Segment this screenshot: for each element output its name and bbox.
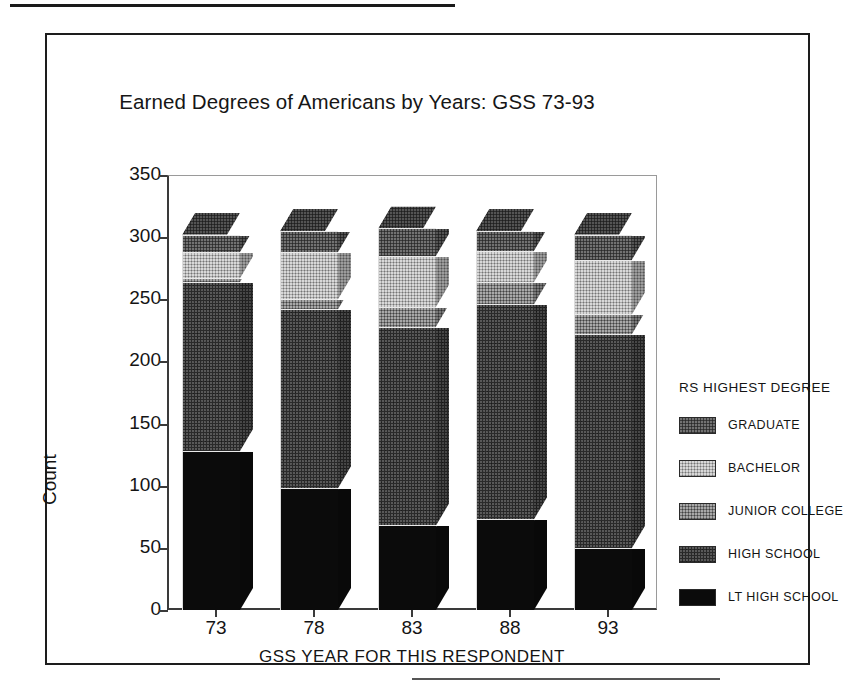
bar-segment-side-face bbox=[534, 305, 547, 519]
bar-segment-graduate bbox=[476, 231, 534, 251]
bar-segment-high-school bbox=[182, 282, 240, 451]
lt-high-school-swatch bbox=[679, 589, 716, 606]
y-axis-title: Count bbox=[39, 454, 61, 505]
legend-title: RS HIGHEST DEGREE bbox=[679, 380, 850, 395]
y-tick-label: 350 bbox=[129, 163, 161, 185]
legend-item-bachelor[interactable]: BACHELOR bbox=[679, 459, 850, 477]
x-tick-label-93: 93 bbox=[578, 617, 638, 639]
bar-segment-side-face bbox=[338, 300, 351, 309]
x-tick-label-83: 83 bbox=[382, 617, 442, 639]
x-tick-label-88: 88 bbox=[480, 617, 540, 639]
y-tick-mark bbox=[159, 610, 168, 612]
x-tick-mark bbox=[215, 610, 217, 617]
bar-segment-junior-college bbox=[182, 278, 240, 282]
legend-item-graduate[interactable]: GRADUATE bbox=[679, 416, 850, 434]
bar-segment-side-face bbox=[436, 526, 449, 610]
graduate-swatch bbox=[679, 417, 716, 434]
y-tick-mark bbox=[159, 361, 168, 363]
bar-stack bbox=[574, 235, 632, 610]
figure-frame: Earned Degrees of Americans by Years: GS… bbox=[45, 33, 810, 665]
bar-stack bbox=[182, 235, 240, 610]
y-tick-mark bbox=[159, 548, 168, 550]
bar-segment-graduate bbox=[280, 231, 338, 252]
bar-segment-bachelor bbox=[182, 252, 240, 278]
x-tick-mark bbox=[509, 610, 511, 617]
x-tick-mark bbox=[607, 610, 609, 617]
y-tick-label: 0 bbox=[150, 598, 161, 620]
bar-segment-lt-high-school bbox=[476, 519, 534, 610]
bar-segment-side-face bbox=[632, 315, 645, 334]
bar-segment-side-face bbox=[338, 489, 351, 610]
bar-top-face-fill bbox=[182, 213, 253, 235]
bar-segment-high-school bbox=[574, 334, 632, 548]
bar-segment-high-school bbox=[280, 309, 338, 488]
bar-column-83 bbox=[378, 175, 436, 610]
bar-column-73 bbox=[182, 175, 240, 610]
bar-segment-side-face bbox=[632, 236, 645, 260]
bar-stack bbox=[378, 228, 436, 610]
bar-top-face-fill bbox=[280, 209, 351, 231]
junior-college-swatch bbox=[679, 503, 716, 520]
y-tick-mark bbox=[159, 299, 168, 301]
bar-segment-junior-college bbox=[280, 299, 338, 309]
y-tick-label: 50 bbox=[140, 536, 161, 558]
bar-segment-lt-high-school bbox=[378, 525, 436, 610]
bar-top-face-fill bbox=[476, 209, 547, 231]
bar-column-78 bbox=[280, 175, 338, 610]
bar-segment-side-face bbox=[240, 279, 253, 282]
x-tick-label-78: 78 bbox=[284, 617, 344, 639]
legend-label: GRADUATE bbox=[728, 418, 800, 432]
bar-segment-lt-high-school bbox=[280, 488, 338, 610]
legend-item-junior-college[interactable]: JUNIOR COLLEGE bbox=[679, 502, 850, 520]
bar-segment-junior-college bbox=[574, 314, 632, 334]
chart-title: Earned Degrees of Americans by Years: GS… bbox=[47, 90, 667, 114]
bar-stack bbox=[280, 231, 338, 610]
x-tick-mark bbox=[313, 610, 315, 617]
bar-segment-side-face bbox=[632, 549, 645, 610]
bar-segment-junior-college bbox=[476, 282, 534, 304]
bar-segment-graduate bbox=[182, 235, 240, 252]
bar-top-face-fill bbox=[378, 206, 449, 228]
legend-label: HIGH SCHOOL bbox=[728, 547, 820, 561]
bar-segment-lt-high-school bbox=[182, 451, 240, 610]
x-axis-title: GSS YEAR FOR THIS RESPONDENT bbox=[167, 647, 657, 667]
bar-segment-side-face bbox=[534, 232, 547, 251]
plot-area bbox=[167, 175, 657, 610]
bar-column-93 bbox=[574, 175, 632, 610]
bar-segment-side-face bbox=[534, 520, 547, 610]
bar-stack bbox=[476, 231, 534, 610]
legend-items: GRADUATEBACHELORJUNIOR COLLEGEHIGH SCHOO… bbox=[679, 416, 850, 606]
bar-segment-bachelor bbox=[476, 251, 534, 282]
bar-top-face bbox=[476, 209, 534, 231]
bar-segment-bachelor bbox=[378, 256, 436, 307]
y-tick-mark bbox=[159, 175, 168, 177]
legend-label: LT HIGH SCHOOL bbox=[728, 590, 839, 604]
y-tick-label: 300 bbox=[129, 225, 161, 247]
x-tick-mark bbox=[411, 610, 413, 617]
bar-segment-lt-high-school bbox=[574, 548, 632, 610]
bar-segment-side-face bbox=[240, 253, 253, 278]
bar-segment-side-face bbox=[632, 261, 645, 315]
bar-segment-side-face bbox=[436, 308, 449, 327]
y-tick-label: 150 bbox=[129, 412, 161, 434]
bar-segment-side-face bbox=[632, 335, 645, 548]
legend: RS HIGHEST DEGREE GRADUATEBACHELORJUNIOR… bbox=[679, 380, 850, 631]
bar-segment-side-face bbox=[240, 283, 253, 451]
bar-column-88 bbox=[476, 175, 534, 610]
high-school-swatch bbox=[679, 546, 716, 563]
y-tick-label: 250 bbox=[129, 287, 161, 309]
x-tick-label-73: 73 bbox=[186, 617, 246, 639]
bar-segment-high-school bbox=[378, 327, 436, 526]
bar-segment-side-face bbox=[338, 253, 351, 299]
bar-top-face bbox=[280, 209, 338, 231]
legend-item-lt-high-school[interactable]: LT HIGH SCHOOL bbox=[679, 588, 850, 606]
legend-label: JUNIOR COLLEGE bbox=[728, 504, 843, 518]
legend-item-high-school[interactable]: HIGH SCHOOL bbox=[679, 545, 850, 563]
bar-top-face-fill bbox=[574, 213, 645, 235]
y-tick-mark bbox=[159, 424, 168, 426]
page-top-rule bbox=[10, 4, 455, 7]
bar-segment-side-face bbox=[534, 252, 547, 282]
bar-segment-side-face bbox=[436, 328, 449, 526]
bar-segment-side-face bbox=[534, 283, 547, 304]
bar-top-face bbox=[182, 213, 240, 235]
